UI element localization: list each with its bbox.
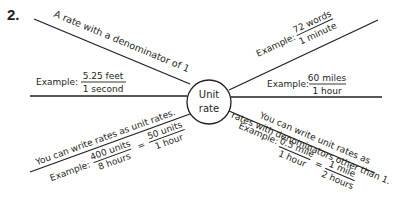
equals-sign: = bbox=[136, 139, 147, 151]
problem-number: 2. bbox=[7, 6, 20, 23]
equals-sign: = bbox=[314, 158, 325, 170]
example-left-numerator: 5.25 feet bbox=[83, 71, 124, 81]
definition-text: A rate with a denominator of 1 bbox=[52, 8, 191, 74]
example-right-denominator: 1 hour bbox=[312, 86, 342, 96]
example-right-numerator: 60 miles bbox=[308, 73, 347, 83]
center-circle bbox=[187, 80, 231, 124]
example-right-label: Example: bbox=[267, 79, 309, 89]
center-label-line2: rate bbox=[199, 103, 219, 114]
unit-rate-concept-map: 2. Unit rate A rate with a denominator o… bbox=[0, 0, 396, 203]
example-left-label: Example: bbox=[36, 77, 78, 87]
center-label-line1: Unit bbox=[199, 89, 219, 100]
example-left-denominator: 1 second bbox=[83, 84, 124, 94]
example-upper-right-label: Example: bbox=[255, 32, 297, 59]
